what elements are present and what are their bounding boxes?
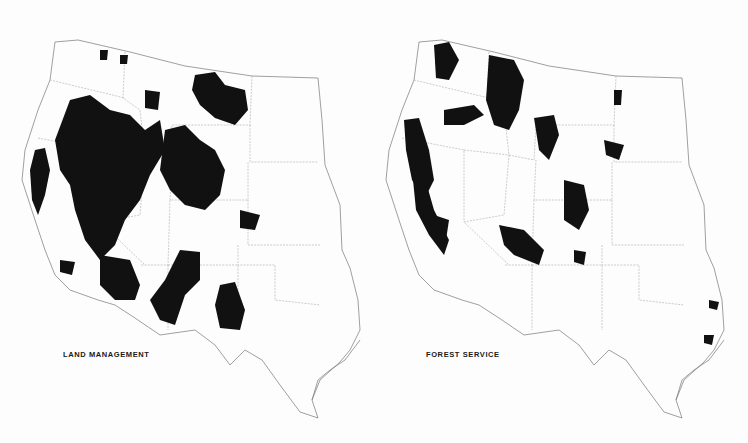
forest-service-regions bbox=[404, 42, 719, 345]
land-management-map bbox=[0, 0, 374, 443]
map-label-land-management: LAND MANAGEMENT bbox=[63, 350, 150, 359]
gulf-coast bbox=[312, 340, 360, 400]
land-management-regions bbox=[30, 50, 260, 330]
gulf-coast bbox=[676, 340, 724, 400]
forest-service-map-panel: FOREST SERVICE bbox=[374, 0, 748, 443]
us-west-outline bbox=[22, 40, 360, 418]
map-label-forest-service: FOREST SERVICE bbox=[426, 350, 500, 359]
state-boundaries bbox=[402, 52, 684, 330]
land-management-map-panel: LAND MANAGEMENT bbox=[0, 0, 374, 443]
forest-service-map bbox=[374, 0, 748, 443]
